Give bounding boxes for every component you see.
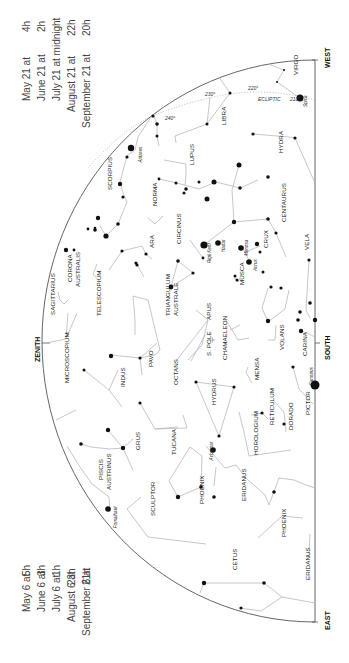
constellation-label: HYDRA [277,130,284,153]
time-top-time-3: 22h [66,19,77,36]
ecliptic-mark-240: 240° [164,115,175,121]
constellation-label: MUSCA [238,261,245,285]
star-label: Rigil Kent [207,243,212,263]
constellation-label: ERIDANUS [240,468,247,501]
time-bottom-time-1: 3h [36,565,47,576]
ecliptic-label: ECLIPTIC [258,96,281,102]
west-label: WEST [324,47,331,68]
time-top-date-1: June 21 at [36,54,47,101]
time-top-date-4: September 21 at [81,54,92,128]
time-top-time-4: 20h [81,19,92,36]
constellation-label: PICTOR [304,391,311,415]
constellation-label: INDUS [119,367,126,387]
constellation-lines [46,64,315,611]
constellation-label: PISCIS [97,459,104,480]
constellation-label: TUCANA [170,428,177,455]
constellation-label: VIRGO [292,54,299,75]
time-top-time-1: 2h [36,21,47,32]
constellation-label: PHOENIX [198,475,205,504]
constellation-label: LIBRA [220,106,227,125]
time-top-date-3: August 21 at [66,56,77,112]
constellation-label: VELA [303,233,310,250]
constellation-label: CIRCINUS [175,213,182,244]
constellation-label: CARINA [301,331,308,356]
time-bottom-date-0: May 6 at [21,573,32,612]
star-label: Mimosa [244,239,249,256]
constellation-labels: VIRGOLIBRAHYDRALUPUSSCORPIUSNORMACENTAUR… [49,54,311,580]
constellation-label: ARA [148,234,155,248]
time-table-bottom: May 6 at June 6 at July 6 at August 6 at… [21,565,92,636]
constellation-label: CENTAURUS [280,183,287,222]
constellation-label: MICROSCOPIUM [63,332,70,383]
constellation-label: RETICULUM [268,388,275,425]
east-label: EAST [324,611,331,630]
ecliptic-mark-220: 220° [247,85,258,91]
constellation-label: TELESCOPIUM [95,271,102,316]
ecliptic-line [88,92,315,168]
south-label: SOUTH [324,336,331,361]
star-label: Hadar [221,239,226,252]
constellation-label: AUSTRALIS [74,252,81,287]
constellation-label: VOLANS [278,324,285,350]
zenith-label: ZENITH [34,337,41,362]
constellation-label: LUPUS [188,144,195,165]
constellation-label: ERIDANUS [304,547,311,580]
constellation-label: AUSTRINUS [105,453,112,490]
constellation-label: CRUX [262,230,269,248]
constellation-label: SCULPTOR [149,481,156,516]
time-bottom-date-2: July 6 at [51,575,62,612]
constellation-label: OCTANS [172,359,179,385]
constellation-label: SCORPIUS [106,157,113,190]
star-labels: SpicaAntaresRigil KentHadarMimosaAcruxCa… [113,95,314,528]
time-bottom-time-2: 1h [51,565,62,576]
constellation-label: NORMA [151,182,158,206]
star-label: Achernar [209,441,214,461]
constellation-label: APUS [205,303,212,320]
star-label: Canopus [309,367,314,386]
constellation-label: MENSA [253,357,260,380]
ecliptic-mark-210: 210° [289,96,300,102]
time-bottom-time-4: 21h [81,568,92,585]
star-chart: ECLIPTIC 210° 220° 230° 240° VIRGOLIBRAH… [0,0,349,663]
constellation-label: HOROLOGIUM [252,411,259,455]
star-label: Acrux [253,259,258,272]
time-top-date-2: July 21 at midnight [51,17,62,101]
star-label: Antares [138,146,143,164]
time-table-top: May 21 at June 21 at July 21 at midnight… [21,17,92,128]
star-label: Spica [303,95,308,107]
star-label: Fomalhaut [113,506,118,528]
constellation-label: TRIANGULUM [164,274,171,316]
constellation-label: SAGITTARIUS [49,273,56,315]
horizon-arc [42,60,315,622]
constellation-label: HYDRUS [210,378,217,405]
constellation-label: CHAMAELEON [221,316,228,360]
ecliptic-labels: ECLIPTIC 210° 220° 230° 240° [164,85,300,121]
constellation-label: GRUS [134,432,141,450]
time-top-time-0: 4h [21,21,32,32]
constellation-label: CETUS [231,549,238,570]
time-bottom-time-3: 23h [66,568,77,585]
constellation-label: S. POLE [205,331,212,356]
constellation-label: PAVO [147,350,154,367]
constellation-label: PHOENIX [280,508,287,537]
time-bottom-time-0: 5h [21,565,32,576]
constellation-label: DORADO [287,402,294,430]
time-top-date-0: May 21 at [21,57,32,101]
constellation-label: CORONA [66,253,73,282]
ecliptic-mark-230: 230° [204,91,215,97]
constellation-label: AUSTRALE [172,283,179,316]
